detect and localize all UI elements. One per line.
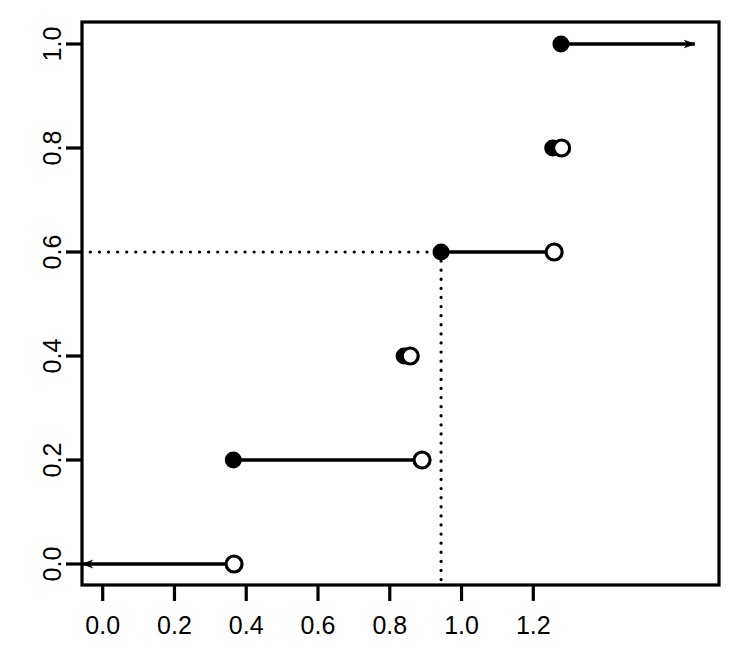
step-end-point-open-2 (402, 348, 418, 364)
x-tick-label-0: 0.0 (85, 611, 120, 639)
y-tick-label-0: 0.0 (38, 547, 66, 582)
x-tick-label-3: 0.6 (301, 611, 336, 639)
x-tick-label-1: 0.2 (157, 611, 192, 639)
x-tick-label-6: 1.2 (516, 611, 551, 639)
step-start-point-filled-1 (225, 452, 242, 469)
step-end-point-open-4 (554, 140, 570, 156)
chart-figure: 0.00.20.40.60.81.01.2 0.00.20.40.60.81.0 (0, 0, 736, 668)
step-start-point-filled-5 (552, 36, 569, 53)
x-tick-label-4: 0.8 (372, 611, 407, 639)
step-end-point-open-1 (414, 452, 430, 468)
y-tick-label-4: 0.8 (38, 131, 66, 166)
step-end-point-open-3 (546, 244, 562, 260)
x-tick-label-5: 1.0 (444, 611, 479, 639)
ecdf-step-plot: 0.00.20.40.60.81.01.2 0.00.20.40.60.81.0 (0, 0, 736, 668)
step-end-point-open-0 (226, 556, 242, 572)
x-tick-label-2: 0.4 (229, 611, 264, 639)
y-tick-label-1: 0.2 (38, 443, 66, 478)
y-tick-label-2: 0.4 (38, 339, 66, 374)
plot-background (0, 0, 736, 668)
y-tick-label-5: 1.0 (38, 27, 66, 62)
y-tick-label-3: 0.6 (38, 235, 66, 270)
step-start-point-filled-3 (433, 244, 450, 261)
